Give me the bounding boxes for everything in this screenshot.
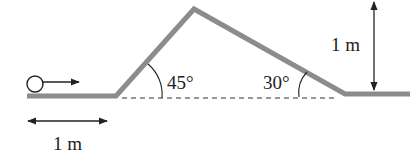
angle-label-30: 30° (263, 72, 290, 93)
angle-label-45: 45° (167, 72, 194, 93)
angle-arc-30 (299, 72, 307, 97)
angle-arc-45 (148, 64, 162, 98)
ball (27, 76, 43, 92)
height-label: 1 m (331, 34, 360, 55)
track-diagram: 45° 30° 1 m 1 m (0, 0, 418, 163)
distance-label: 1 m (53, 133, 82, 154)
